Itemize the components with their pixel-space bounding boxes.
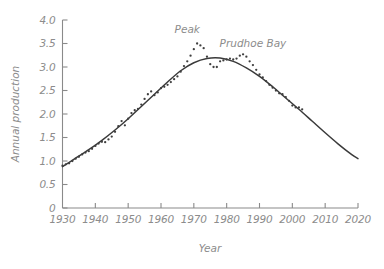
data-point: [212, 66, 214, 68]
y-tick-label: 4.0: [39, 14, 56, 26]
data-point: [94, 145, 96, 147]
data-point: [91, 148, 93, 150]
data-point: [258, 73, 260, 75]
data-point: [120, 120, 122, 122]
data-point: [199, 44, 201, 46]
data-point: [291, 104, 293, 106]
data-point: [288, 100, 290, 102]
data-point: [294, 106, 296, 108]
data-point: [140, 103, 142, 105]
data-point: [196, 42, 198, 44]
data-point: [265, 80, 267, 82]
y-tick-label: 3.5: [39, 37, 56, 49]
data-point: [209, 63, 211, 65]
x-tick-label: 2020: [345, 213, 371, 225]
data-point: [239, 55, 241, 57]
data-point: [150, 90, 152, 92]
data-point: [71, 160, 73, 162]
data-point: [74, 158, 76, 160]
data-point: [97, 142, 99, 144]
data-point: [219, 60, 221, 62]
y-tick-label: 0: [49, 202, 56, 214]
data-point: [114, 131, 116, 133]
data-point: [111, 135, 113, 137]
data-point: [252, 64, 254, 66]
data-point: [61, 165, 63, 167]
data-point: [157, 91, 159, 93]
data-point: [117, 125, 119, 127]
data-point: [255, 69, 257, 71]
x-axis-title: Year: [199, 242, 222, 254]
data-point: [203, 47, 205, 49]
y-tick-label: 1.5: [39, 131, 56, 143]
data-point: [84, 151, 86, 153]
y-tick-label: 3.0: [39, 61, 56, 73]
data-point: [160, 87, 162, 89]
data-point: [101, 141, 103, 143]
data-point: [235, 57, 237, 59]
data-point: [81, 153, 83, 155]
data-point: [163, 86, 165, 88]
chart-annotation: Prudhoe Bay: [220, 37, 287, 49]
data-point: [170, 81, 172, 83]
data-point: [298, 106, 300, 108]
data-point: [249, 60, 251, 62]
data-point: [78, 156, 80, 158]
data-point: [262, 76, 264, 78]
x-tick-label: 1980: [214, 213, 240, 225]
y-tick-label: 2.5: [39, 84, 56, 96]
y-tick-label: 0.5: [39, 178, 56, 190]
data-point: [173, 78, 175, 80]
data-point: [183, 65, 185, 67]
data-point: [226, 58, 228, 60]
y-tick-label: 2.0: [39, 108, 56, 120]
x-tick-label: 1940: [82, 213, 108, 225]
data-point: [153, 94, 155, 96]
data-point: [285, 96, 287, 98]
y-axis-title: Annual production: [9, 66, 21, 163]
data-point: [180, 71, 182, 73]
x-tick-label: 1950: [115, 213, 141, 225]
data-point: [206, 56, 208, 58]
data-point: [134, 109, 136, 111]
data-point: [222, 59, 224, 61]
data-point: [268, 84, 270, 86]
x-tick-label: 2010: [312, 213, 338, 225]
data-point: [147, 93, 149, 95]
data-point: [242, 53, 244, 55]
x-tick-label: 1930: [50, 213, 76, 225]
chart-annotation: Peak: [175, 23, 201, 35]
x-tick-label: 1970: [181, 213, 207, 225]
y-tick-label-group: 00.51.01.52.02.53.03.54.0: [39, 14, 56, 214]
x-tick-label: 2000: [279, 213, 305, 225]
data-point: [124, 124, 126, 126]
data-point: [143, 98, 145, 100]
data-point: [271, 87, 273, 89]
data-point: [137, 108, 139, 110]
data-point: [130, 112, 132, 114]
data-point: [216, 66, 218, 68]
data-point: [229, 57, 231, 59]
x-tick-label: 1990: [247, 213, 273, 225]
data-point: [301, 108, 303, 110]
data-point: [186, 60, 188, 62]
production-chart: 00.51.01.52.02.53.03.54.0 19301940195019…: [0, 0, 384, 269]
y-tick-label: 1.0: [39, 155, 56, 167]
data-point: [107, 138, 109, 140]
data-point: [68, 162, 70, 164]
data-point: [245, 56, 247, 58]
data-point: [278, 92, 280, 94]
data-point: [65, 163, 67, 165]
data-point: [275, 89, 277, 91]
data-point: [232, 58, 234, 60]
data-point: [189, 55, 191, 57]
data-point: [281, 93, 283, 95]
data-point: [176, 75, 178, 77]
data-point: [193, 48, 195, 50]
data-point: [127, 118, 129, 120]
data-point: [104, 141, 106, 143]
x-tick-label: 1960: [148, 213, 174, 225]
data-point: [88, 150, 90, 152]
data-point: [166, 84, 168, 86]
